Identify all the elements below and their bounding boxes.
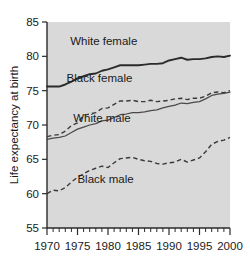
series-label-black-male: Black male xyxy=(77,173,133,185)
series-label-white-male: White male xyxy=(73,112,131,124)
y-tick-label: 80 xyxy=(26,50,39,62)
y-axis-title: Life expectancy at birth xyxy=(8,66,20,184)
y-tick-label: 85 xyxy=(26,16,39,28)
x-tick-label: 2000 xyxy=(217,240,243,252)
x-tick-label: 1995 xyxy=(187,240,213,252)
chart-svg: 55606570758085 1970197519801985199019952… xyxy=(0,0,250,263)
x-tick-label: 1990 xyxy=(156,240,182,252)
y-tick-label: 75 xyxy=(26,85,39,97)
y-tick-label: 55 xyxy=(26,222,39,234)
life-expectancy-chart: 55606570758085 1970197519801985199019952… xyxy=(0,0,250,263)
series-label-white-female: White female xyxy=(70,35,137,47)
y-tick-label: 60 xyxy=(26,188,39,200)
y-tick-label: 70 xyxy=(26,119,39,131)
x-axis-tick-labels: 1970197519801985199019952000 xyxy=(34,240,243,252)
x-tick-label: 1970 xyxy=(34,240,60,252)
x-tick-label: 1980 xyxy=(95,240,121,252)
series-label-black-female: Black female xyxy=(67,72,133,84)
x-tick-label: 1985 xyxy=(126,240,152,252)
y-tick-label: 65 xyxy=(26,153,39,165)
x-tick-label: 1975 xyxy=(65,240,91,252)
